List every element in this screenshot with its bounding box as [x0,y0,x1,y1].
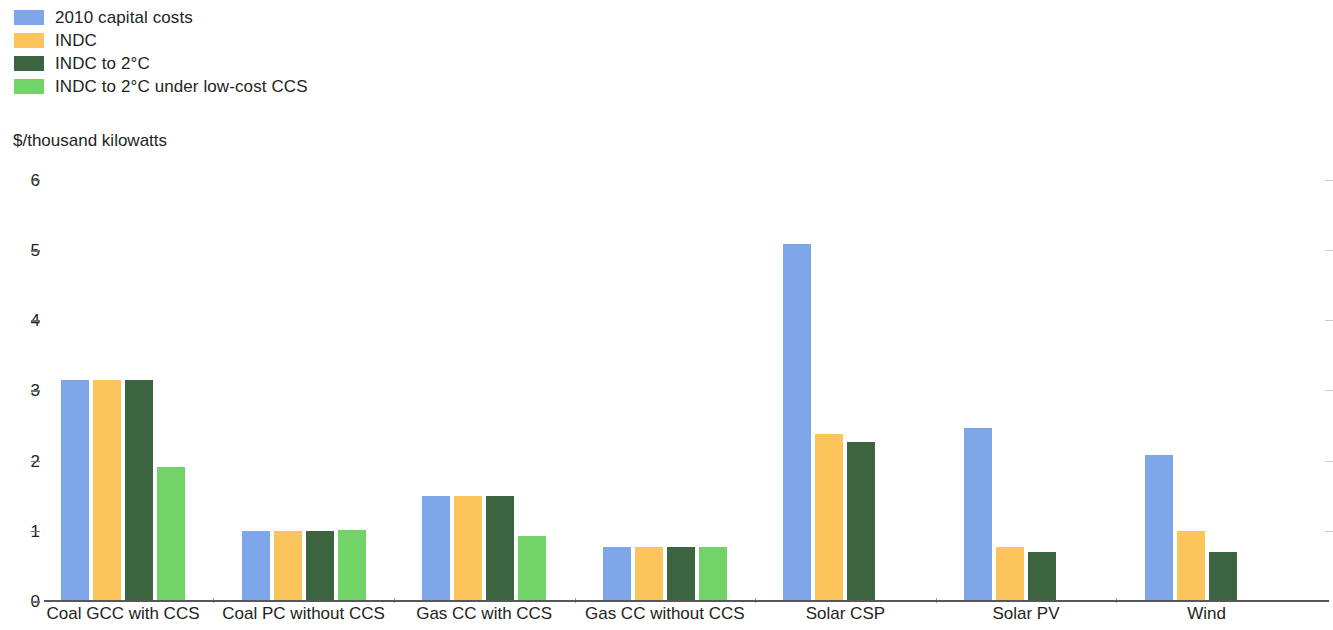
x-axis-baseline [44,600,1329,602]
y-tick: 2 [0,461,40,462]
bar[interactable] [1028,552,1056,601]
x-axis-label: Solar PV [992,604,1059,624]
bar[interactable] [1177,531,1205,601]
bar[interactable] [306,531,334,601]
x-axis-label: Wind [1187,604,1226,624]
y-tick-mark-right [1325,531,1333,532]
y-tick-mark-right [1325,390,1333,391]
y-tick-mark [31,320,40,322]
bar[interactable] [486,496,514,601]
bar[interactable] [699,547,727,601]
y-tick: 0 [0,601,40,602]
y-tick: 3 [0,390,40,391]
bar[interactable] [815,434,843,601]
y-tick-mark [31,390,40,392]
x-axis-label: Solar CSP [806,604,885,624]
bar[interactable] [157,467,185,601]
x-axis-label: Gas CC with CCS [416,604,552,624]
y-tick: 1 [0,531,40,532]
bar[interactable] [454,496,482,601]
y-tick-mark [31,461,40,463]
bar[interactable] [603,547,631,601]
y-tick-mark [31,180,40,182]
bar[interactable] [783,244,811,601]
y-tick-mark-right [1325,250,1333,251]
bar[interactable] [964,428,992,601]
y-tick-mark [31,531,40,533]
y-tick: 4 [0,320,40,321]
bar[interactable] [93,380,121,601]
bar-chart-plot: 0123456 Coal GCC with CCSCoal PC without… [0,0,1333,630]
y-tick-mark [31,250,40,252]
bar[interactable] [338,530,366,601]
x-axis-label: Gas CC without CCS [585,604,745,624]
bar[interactable] [422,496,450,601]
bar[interactable] [635,547,663,601]
bar[interactable] [1145,455,1173,601]
bar[interactable] [667,547,695,601]
y-tick: 5 [0,250,40,251]
bar[interactable] [242,531,270,601]
y-tick-mark-right [1325,180,1333,181]
bar[interactable] [996,547,1024,601]
x-axis-label: Coal GCC with CCS [46,604,199,624]
y-tick: 6 [0,180,40,181]
bar[interactable] [518,536,546,601]
bar[interactable] [847,442,875,601]
bar[interactable] [61,380,89,601]
x-axis-label: Coal PC without CCS [222,604,385,624]
bar[interactable] [1209,552,1237,601]
bar[interactable] [274,531,302,601]
y-tick-mark-right [1325,320,1333,321]
bar[interactable] [125,380,153,601]
y-tick-mark-right [1325,461,1333,462]
y-tick-mark [31,601,40,603]
